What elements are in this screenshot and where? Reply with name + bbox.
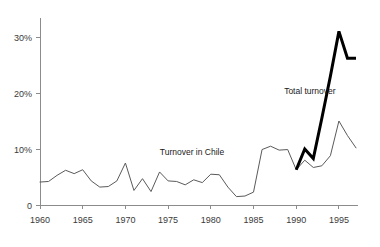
x-tick-label: 1985 (243, 215, 263, 225)
annotation-total-turnover: Total turnover (284, 86, 336, 96)
y-tick-label: 20% (14, 89, 32, 99)
series-line-total-turnover (296, 31, 356, 169)
y-tick-label: 10% (14, 145, 32, 155)
y-tick-label: 30% (14, 33, 32, 43)
annotation-group: Total turnoverTurnover in Chile (160, 86, 336, 156)
series-line-turnover-in-chile (40, 121, 356, 197)
x-tick-label: 1990 (286, 215, 306, 225)
x-tick-label: 1995 (329, 215, 349, 225)
x-tick-label: 1970 (115, 215, 135, 225)
y-tick-label: 0 (27, 201, 32, 211)
x-tick-label: 1965 (73, 215, 93, 225)
x-axis: 19601965197019751980198519901995 (30, 205, 358, 225)
annotation-turnover-in-chile: Turnover in Chile (160, 147, 225, 157)
line-chart: 010%20%30% 19601965197019751980198519901… (0, 0, 380, 247)
data-series-group (40, 31, 356, 196)
x-tick-label: 1960 (30, 215, 50, 225)
chart-container: 010%20%30% 19601965197019751980198519901… (0, 0, 380, 247)
y-axis: 010%20%30% (14, 18, 40, 211)
x-tick-label: 1975 (158, 215, 178, 225)
x-tick-label: 1980 (201, 215, 221, 225)
